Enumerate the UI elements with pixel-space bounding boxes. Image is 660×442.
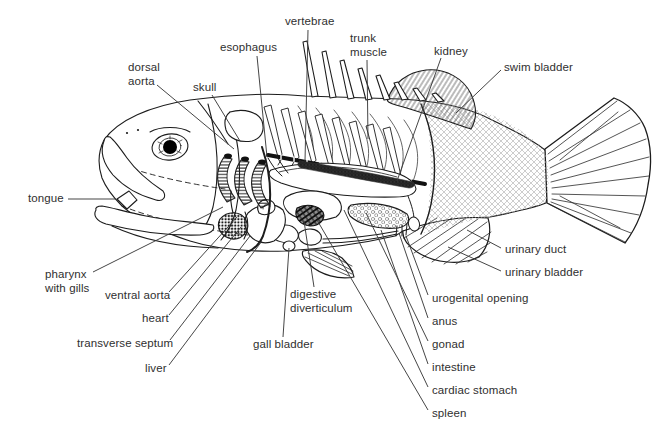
label-esophagus: esophagus [220,41,277,55]
label-pharynx-with-gills: pharynx with gills [45,268,89,295]
label-kidney: kidney [434,45,468,59]
pelvic-fin [302,250,354,278]
label-gall-bladder: gall bladder [253,338,314,352]
label-ventral-aorta: ventral aorta [105,289,170,303]
gall-bladder-organ [283,241,295,251]
label-cardiac-stomach: cardiac stomach [432,384,517,398]
label-swim-bladder: swim bladder [504,61,573,75]
heart-organ [218,213,247,239]
label-gonad: gonad [432,338,464,352]
label-urinary-bladder: urinary bladder [505,266,583,280]
label-liver: liver [145,362,167,376]
label-dorsal-aorta: dorsal aorta [128,61,160,88]
label-transverse-septum: transverse septum [77,337,173,351]
fish-anatomy-diagram: vertebraeesophagusdorsal aortaskulltrunk… [0,0,660,442]
label-digestive-diverticulum: digestive diverticulum [290,288,353,315]
label-urogenital-opening: urogenital opening [432,292,528,306]
scaled-body-region [421,104,549,234]
label-tongue: tongue [28,192,64,206]
label-urinary-duct: urinary duct [505,243,566,257]
label-trunk-muscle: trunk muscle [350,32,387,59]
label-spleen: spleen [432,407,467,421]
label-skull: skull [193,81,217,95]
label-intestine: intestine [432,361,476,375]
caudal-fin [545,98,650,243]
label-heart: heart [142,312,169,326]
label-anus: anus [432,315,457,329]
label-vertebrae: vertebrae [285,15,334,29]
